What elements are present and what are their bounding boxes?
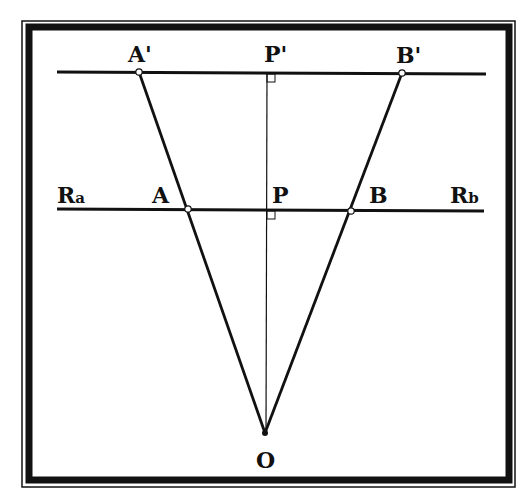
label-r-a-main: R bbox=[57, 182, 76, 208]
label-o: O bbox=[256, 447, 275, 473]
ray-o-a-prime bbox=[139, 72, 265, 433]
label-p-prime: P' bbox=[264, 41, 287, 67]
frame-outer-line bbox=[22, 21, 515, 487]
label-a-prime: A' bbox=[127, 41, 152, 67]
label-a: A bbox=[151, 182, 170, 208]
ray-o-b-prime bbox=[265, 73, 402, 433]
label-p: P bbox=[272, 182, 289, 208]
label-b-prime: B' bbox=[396, 42, 421, 68]
point-o bbox=[262, 430, 268, 436]
point-a-prime bbox=[136, 69, 142, 75]
projection-diagram: A' P' B' Ra A P B Rb O bbox=[0, 0, 529, 502]
point-b bbox=[348, 208, 354, 214]
label-b: B bbox=[369, 182, 388, 208]
point-b-prime bbox=[399, 70, 405, 76]
label-r-b-main: R bbox=[450, 182, 469, 208]
right-angle-marker-p bbox=[267, 211, 275, 219]
right-angle-marker-p-prime bbox=[267, 74, 275, 82]
point-a bbox=[185, 206, 191, 212]
label-r-a-sub: a bbox=[75, 189, 85, 207]
label-r-a: Ra bbox=[57, 182, 85, 208]
perpendicular-line bbox=[266, 73, 267, 433]
label-r-b-sub: b bbox=[468, 189, 479, 207]
frame-thick-border bbox=[29, 27, 509, 480]
label-r-b: Rb bbox=[450, 182, 479, 208]
